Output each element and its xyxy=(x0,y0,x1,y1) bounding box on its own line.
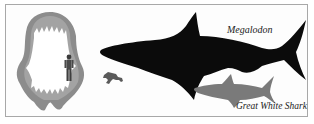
jaw-icon xyxy=(17,12,84,111)
great-white-shark-label: Great White Shark xyxy=(236,101,307,111)
megalodon-label: Megalodon xyxy=(227,24,273,35)
diver-icon xyxy=(103,72,123,84)
